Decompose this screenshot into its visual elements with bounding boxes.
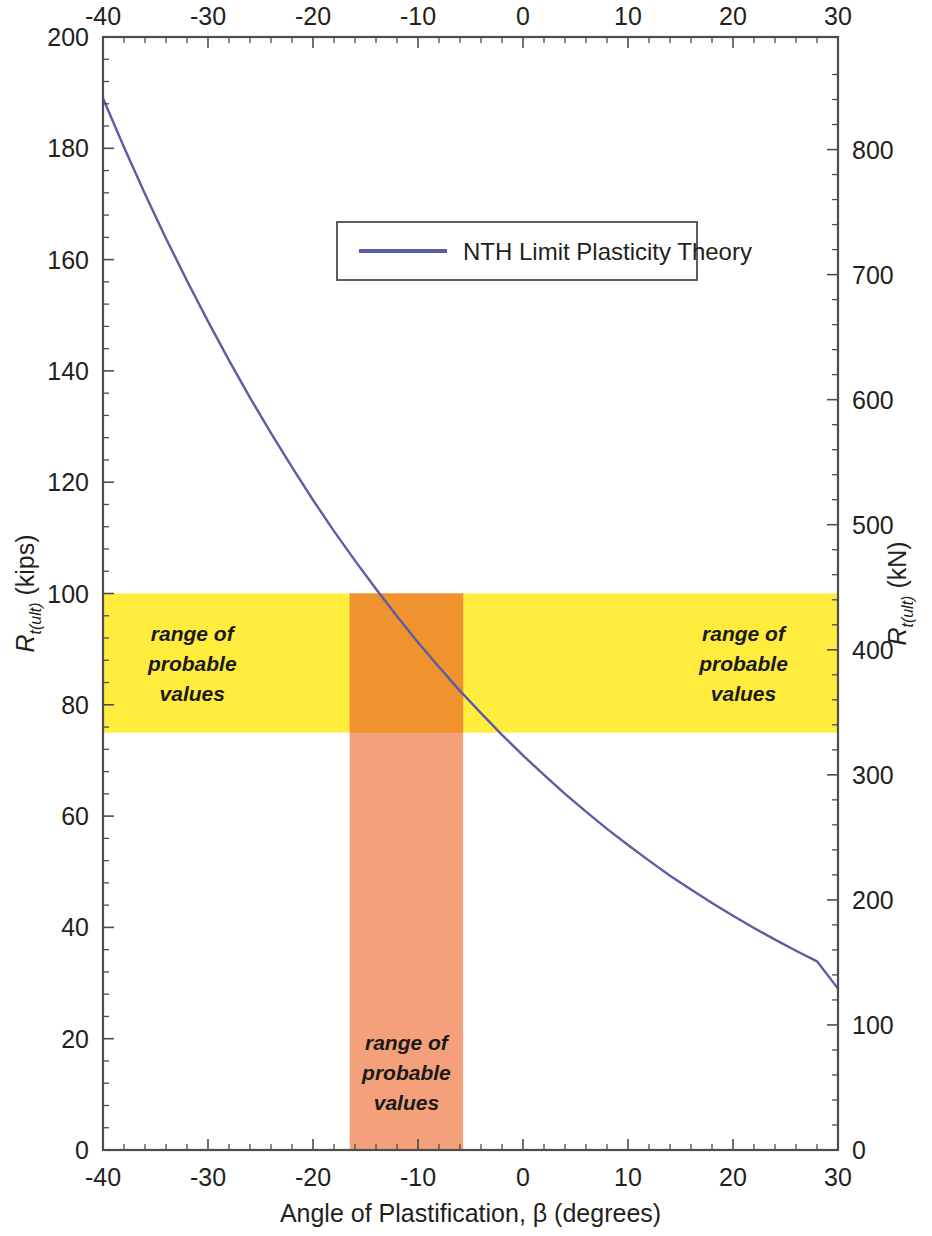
y-tick-label-left: 100 bbox=[47, 580, 89, 608]
y-tick-label-left: 180 bbox=[47, 134, 89, 162]
overlap-region bbox=[350, 594, 463, 733]
y-tick-label-right: 700 bbox=[852, 261, 894, 289]
y-tick-label-right: 100 bbox=[852, 1011, 894, 1039]
y-tick-label-left: 60 bbox=[61, 802, 89, 830]
y-tick-label-left: 200 bbox=[47, 23, 89, 51]
y-tick-label-left: 20 bbox=[61, 1025, 89, 1053]
y-tick-label-right: 300 bbox=[852, 761, 894, 789]
y-tick-label-right: 200 bbox=[852, 886, 894, 914]
y-tick-label-left: 140 bbox=[47, 357, 89, 385]
x-tick-label-bottom: 20 bbox=[719, 1163, 747, 1191]
y-tick-label-left: 120 bbox=[47, 468, 89, 496]
x-tick-label-top: -40 bbox=[85, 2, 121, 30]
x-tick-label-top: -30 bbox=[190, 2, 226, 30]
y-tick-label-right: 800 bbox=[852, 136, 894, 164]
x-tick-label-top: -10 bbox=[400, 2, 436, 30]
y-tick-label-left: 160 bbox=[47, 246, 89, 274]
x-tick-label-bottom: -20 bbox=[295, 1163, 331, 1191]
x-axis-title: Angle of Plastification, β (degrees) bbox=[280, 1199, 661, 1227]
y-tick-label-right: 0 bbox=[852, 1136, 866, 1164]
chart-figure: -40-40-30-30-20-20-10-100010102020303002… bbox=[0, 0, 932, 1236]
x-tick-label-top: 20 bbox=[719, 2, 747, 30]
x-tick-label-top: 30 bbox=[824, 2, 852, 30]
band-annotation-horizontal-probable-range: range ofprobablevalues bbox=[147, 622, 237, 705]
x-tick-label-bottom: 10 bbox=[614, 1163, 642, 1191]
legend[interactable]: NTH Limit Plasticity Theory bbox=[337, 222, 752, 280]
legend-label-nth-limit-plasticity-theory: NTH Limit Plasticity Theory bbox=[463, 238, 752, 265]
x-tick-label-top: 10 bbox=[614, 2, 642, 30]
x-tick-label-bottom: -40 bbox=[85, 1163, 121, 1191]
band-annotation-vertical-probable-range: range ofprobablevalues bbox=[361, 1031, 451, 1114]
y-tick-label-left: 80 bbox=[61, 691, 89, 719]
x-tick-label-bottom: -30 bbox=[190, 1163, 226, 1191]
y-tick-label-right: 500 bbox=[852, 511, 894, 539]
x-tick-label-bottom: -10 bbox=[400, 1163, 436, 1191]
plot-canvas: -40-40-30-30-20-20-10-100010102020303002… bbox=[0, 0, 932, 1236]
y-tick-label-left: 40 bbox=[61, 913, 89, 941]
x-tick-label-top: -20 bbox=[295, 2, 331, 30]
y-tick-label-right: 600 bbox=[852, 386, 894, 414]
x-tick-label-bottom: 30 bbox=[824, 1163, 852, 1191]
y-tick-label-left: 0 bbox=[75, 1136, 89, 1164]
x-tick-label-bottom: 0 bbox=[516, 1163, 530, 1191]
x-tick-label-top: 0 bbox=[516, 2, 530, 30]
band-annotation-horizontal-probable-range: range ofprobablevalues bbox=[698, 622, 788, 705]
